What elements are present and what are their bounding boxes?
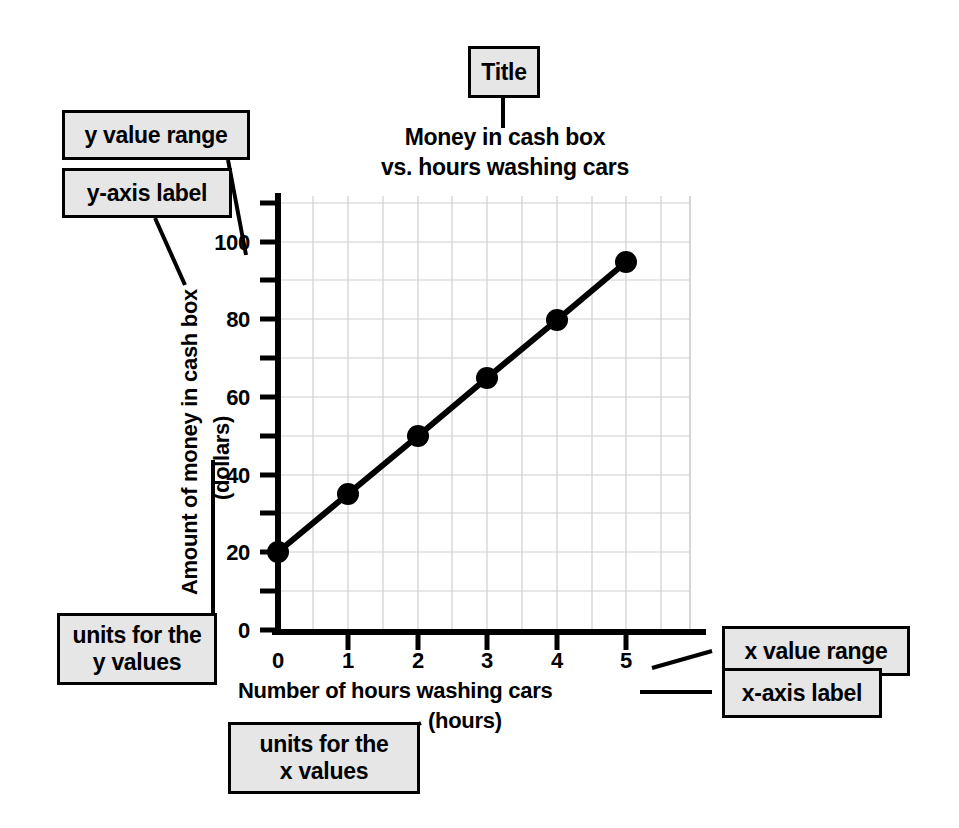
y-tick-label-100: 100 bbox=[190, 230, 250, 256]
leader-y-axis-label bbox=[155, 218, 185, 285]
x-tick-label-1: 1 bbox=[328, 648, 368, 674]
chart-title: Money in cash box vs. hours washing cars bbox=[330, 122, 680, 182]
callout-units-y-values: units for the y values bbox=[57, 613, 217, 685]
callout-y-axis-label: y-axis label bbox=[62, 168, 232, 218]
x-axis-title: Number of hours washing cars bbox=[238, 676, 552, 705]
worksheet-diagram: Money in cash box vs. hours washing cars… bbox=[0, 0, 959, 828]
y-tick-label-80: 80 bbox=[200, 307, 250, 333]
x-tick-label-0: 0 bbox=[258, 648, 298, 674]
y-tick-label-20: 20 bbox=[200, 540, 250, 566]
x-tick-label-4: 4 bbox=[537, 648, 577, 674]
x-tick-label-2: 2 bbox=[398, 648, 438, 674]
x-tick-label-5: 5 bbox=[606, 648, 646, 674]
callout-title: Title bbox=[468, 46, 540, 98]
y-tick-label-60: 60 bbox=[200, 385, 250, 411]
callout-x-axis-label: x-axis label bbox=[722, 668, 882, 718]
callout-units-x-values: units for the x values bbox=[228, 722, 420, 794]
callout-y-value-range: y value range bbox=[62, 110, 250, 160]
x-axis-units: (hours) bbox=[428, 706, 502, 735]
x-tick-label-3: 3 bbox=[467, 648, 507, 674]
leader-x-value-range bbox=[652, 651, 712, 668]
y-tick-label-40: 40 bbox=[200, 463, 250, 489]
